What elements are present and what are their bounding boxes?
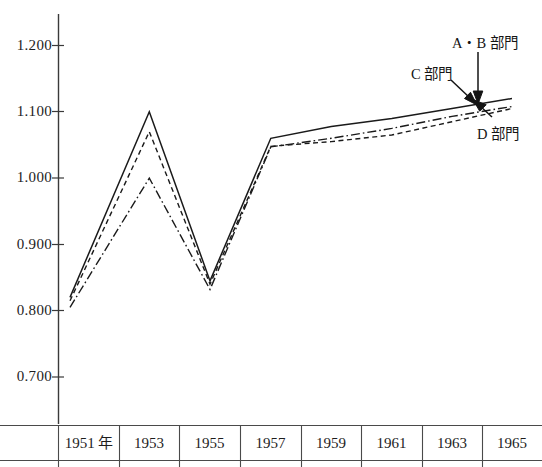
- x-axis-cell-1963: 1963: [422, 426, 482, 461]
- x-axis-cell-1957: 1957: [240, 426, 301, 461]
- x-axis-cell-1951: 1951 年: [59, 426, 119, 461]
- chart-figure: 1.200 1.100 1.000 0.900 0.800 0.700 A・B …: [0, 0, 542, 467]
- x-axis-cell-1965: 1965: [482, 426, 542, 461]
- y-axis-tick-label-0700: 0.700: [0, 368, 52, 385]
- series-line-ab: [70, 99, 512, 298]
- plot-canvas: [0, 0, 542, 467]
- x-axis-cell-1955: 1955: [179, 426, 240, 461]
- y-axis-tick-label-0900: 0.900: [0, 236, 52, 253]
- series-line-c: [70, 109, 512, 301]
- series-label-d: D 部門: [477, 122, 519, 143]
- x-axis-cell-1953: 1953: [119, 426, 179, 461]
- y-axis-tick-label-1200: 1.200: [0, 37, 52, 54]
- y-axis-tick-label-0800: 0.800: [0, 302, 52, 319]
- series-label-c: C 部門: [411, 62, 452, 83]
- series-line-d: [70, 107, 512, 308]
- x-axis-cell-1961: 1961: [361, 426, 422, 461]
- y-axis-tick-label-1000: 1.000: [0, 169, 52, 186]
- y-axis-tick-label-1100: 1.100: [0, 103, 52, 120]
- x-axis-cell-1959: 1959: [301, 426, 361, 461]
- series-label-ab: A・B 部門: [452, 31, 518, 52]
